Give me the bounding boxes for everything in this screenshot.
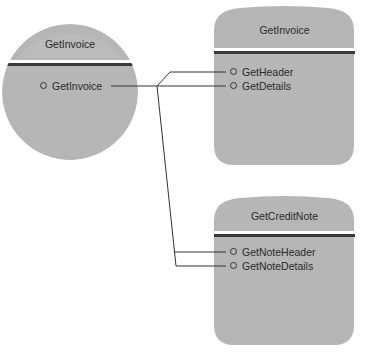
interface-lollipop-icon: [230, 82, 237, 89]
component-item-label: GetDetails: [242, 80, 291, 92]
client-item-label: GetInvoice: [52, 80, 102, 92]
client-item-getinvoice[interactable]: GetInvoice: [40, 80, 102, 92]
diagram-canvas: [0, 0, 367, 359]
component-item-label: GetHeader: [242, 66, 293, 78]
component-item-getdetails[interactable]: GetDetails: [230, 80, 291, 92]
component-item-label: GetNoteHeader: [242, 246, 316, 258]
component-title-getinvoice: GetInvoice: [214, 24, 355, 36]
component-item-getnoteheader[interactable]: GetNoteHeader: [230, 246, 316, 258]
client-title: GetInvoice: [20, 38, 120, 50]
component-item-getheader[interactable]: GetHeader: [230, 66, 293, 78]
interface-lollipop-icon: [230, 68, 237, 75]
component-item-getnotedetails[interactable]: GetNoteDetails: [230, 260, 313, 272]
component-title-getcreditnote: GetCreditNote: [214, 210, 355, 222]
interface-lollipop-icon: [230, 248, 237, 255]
interface-lollipop-icon: [230, 262, 237, 269]
interface-lollipop-icon: [40, 82, 47, 89]
component-item-label: GetNoteDetails: [242, 260, 313, 272]
